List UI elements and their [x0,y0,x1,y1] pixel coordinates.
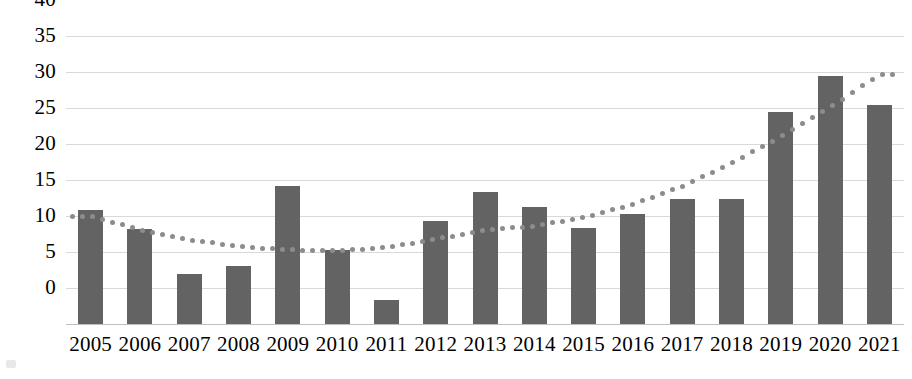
trendline-dot [500,226,505,231]
y-axis-tick-label: 5 [45,241,56,262]
x-axis-line [66,324,904,325]
trendline-dot [380,245,385,250]
trendline-dot [160,232,165,237]
x-axis-tick-label: 2017 [658,334,707,355]
trendline-dot [770,139,775,144]
bar [325,250,350,324]
x-axis-tick-label: 2020 [805,334,854,355]
trendline-dot [100,217,105,222]
bar [719,199,744,324]
trendline-dot [370,246,375,251]
trendline-dot [310,248,315,253]
x-axis-tick-label: 2012 [411,334,460,355]
gridline [66,36,904,37]
trendline-dot [240,244,245,249]
trendline-dot [590,213,595,218]
x-axis-tick-label: 2008 [214,334,263,355]
trendline-dot [400,242,405,247]
x-axis-tick-label: 2021 [855,334,904,355]
trendline-dot [340,248,345,253]
trendline-dot [810,115,815,120]
trendline-dot [550,220,555,225]
trendline-dot [420,239,425,244]
trendline-dot [640,198,645,203]
trendline-dot [250,245,255,250]
plot-area [66,36,904,324]
trendline-dot [530,224,535,229]
trendline-dot [140,228,145,233]
trendline-dot [80,214,85,219]
trendline-dot [680,184,685,189]
y-axis-tick-label: 15 [35,169,56,190]
x-axis-tick-label: 2018 [707,334,756,355]
trendline-dot [520,225,525,230]
trendline-dot [670,187,675,192]
y-axis-tick-label: 20 [35,133,56,154]
y-axis-tick-label: 10 [35,205,56,226]
bar [177,274,202,324]
trendline-dot [600,210,605,215]
trendline-dot [630,202,635,207]
x-axis-tick-label: 2007 [165,334,214,355]
y-axis-tick-label: 30 [35,61,56,82]
trendline-dot [120,222,125,227]
trendline-dot [880,72,885,77]
y-axis-tick-label: 40 [35,0,56,10]
trendline-dot [450,234,455,239]
trendline-dot [560,219,565,224]
gridline [66,72,904,73]
trendline-dot [870,77,875,82]
trendline-dot [660,191,665,196]
trendline-dot [860,83,865,88]
x-axis-tick-label: 2010 [312,334,361,355]
bar-chart: 0510152025303540 20052006200720082009201… [0,0,912,379]
trendline-dot [790,127,795,132]
trendline-dot [390,244,395,249]
x-axis-tick-label: 2019 [756,334,805,355]
bar [226,266,251,324]
trendline-dot [710,170,715,175]
trendline-dot [800,121,805,126]
x-axis-tick-label: 2014 [510,334,559,355]
trendline-dot [220,242,225,247]
x-axis-tick-label: 2013 [460,334,509,355]
trendline-dot [750,149,755,154]
trendline-dot [230,243,235,248]
y-axis-tick-label: 25 [35,97,56,118]
x-axis-tick-label: 2015 [559,334,608,355]
gridline [66,108,904,109]
x-axis-tick-label: 2009 [263,334,312,355]
bar [78,210,103,324]
scan-artifact [6,360,16,368]
trendline-dot [610,207,615,212]
bar [571,228,596,324]
trendline-dot [620,205,625,210]
trendline-dot [170,234,175,239]
trendline-dot [180,236,185,241]
trendline-dot [690,179,695,184]
bar [127,229,152,324]
trendline-dot [850,90,855,95]
trendline-dot [720,165,725,170]
trendline-dot [360,247,365,252]
trendline-dot [410,241,415,246]
y-axis-tick-label: 35 [35,25,56,46]
trendline-dot [320,248,325,253]
bar [670,199,695,324]
trendline-dot [650,195,655,200]
y-axis: 0510152025303540 [0,0,56,288]
y-axis-tick-label: 0 [45,277,56,298]
trendline-dot [760,144,765,149]
trendline-dot [840,97,845,102]
x-axis-tick-label: 2016 [608,334,657,355]
trendline-dot [460,232,465,237]
trendline-dot [70,214,75,219]
trendline-dot [740,155,745,160]
trendline-dot [730,160,735,165]
trendline-dot [700,174,705,179]
trendline-dot [580,215,585,220]
trendline-dot [260,246,265,251]
trendline-dot [110,220,115,225]
bar [867,105,892,324]
trendline-dot [190,238,195,243]
